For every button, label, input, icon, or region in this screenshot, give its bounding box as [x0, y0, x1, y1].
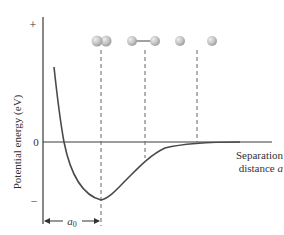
- y-tick-minus: –: [30, 194, 37, 206]
- a0-label: a0: [67, 215, 77, 229]
- y-axis-label: Potential energy (eV): [11, 94, 24, 189]
- atom-separated-2: [207, 36, 217, 46]
- atom-icon: [92, 36, 103, 47]
- atom-pair-overlapping: [92, 36, 112, 47]
- x-axis-label-line1: Separation: [236, 149, 284, 161]
- potential-curve: [54, 67, 240, 200]
- atom-icon: [150, 36, 160, 46]
- potential-energy-diagram: + 0 – Potential energy (eV) Separation d…: [0, 0, 284, 235]
- y-tick-zero: 0: [33, 136, 39, 148]
- x-axis-label-line2: distance a: [239, 162, 284, 174]
- atom-separated-1: [175, 36, 185, 46]
- atom-icon: [127, 36, 137, 46]
- atom-pair-bonded: [127, 36, 160, 46]
- y-tick-plus: +: [30, 18, 37, 32]
